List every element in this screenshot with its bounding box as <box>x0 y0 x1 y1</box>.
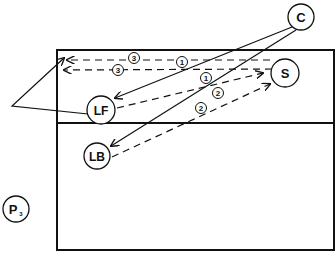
svg-text:3: 3 <box>116 66 121 75</box>
player-label: LB <box>89 150 105 164</box>
sequence-marker: 3 <box>113 65 124 76</box>
svg-text:2: 2 <box>216 89 221 98</box>
sequence-marker: 2 <box>196 103 207 114</box>
player-c[interactable]: C <box>288 4 314 30</box>
volleyball-play-diagram: C S LF LB P 3 3 3 1 <box>0 0 336 257</box>
player-label: LF <box>94 104 109 118</box>
player-lb[interactable]: LB <box>84 143 110 169</box>
movement-paths <box>12 27 296 157</box>
svg-text:3: 3 <box>132 54 137 63</box>
player-label: C <box>296 10 306 25</box>
svg-text:1: 1 <box>180 58 185 67</box>
path-lb-to-s <box>112 84 270 157</box>
path-lf-to-s <box>117 73 263 108</box>
sequence-marker: 1 <box>201 73 212 84</box>
sequence-marker: 2 <box>213 88 224 99</box>
sequence-marker: 3 <box>129 53 140 64</box>
player-lf[interactable]: LF <box>87 96 115 124</box>
player-s[interactable]: S <box>271 59 299 87</box>
svg-text:2: 2 <box>199 104 204 113</box>
player-label: S <box>281 66 290 81</box>
player-p3[interactable]: P 3 <box>3 196 29 222</box>
svg-text:1: 1 <box>204 74 209 83</box>
player-label: P <box>9 202 18 217</box>
path-lf-to-corner <box>12 58 88 114</box>
path-s-to-left-2 <box>64 69 272 70</box>
sequence-marker: 1 <box>177 57 188 68</box>
